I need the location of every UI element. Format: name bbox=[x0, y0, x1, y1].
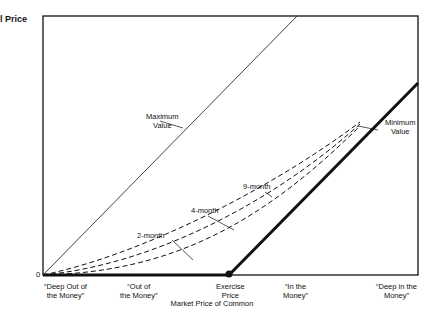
max-value-label: Maximum Value bbox=[146, 113, 179, 130]
min-label-line2: Value bbox=[385, 128, 415, 137]
label-2-month: 2-month bbox=[137, 232, 165, 241]
curve-4-month bbox=[43, 124, 360, 275]
x-label-deep-in: “Deep in the Money” bbox=[376, 283, 417, 300]
maximum-value-line bbox=[43, 16, 297, 275]
min-value-label: Minimum Value bbox=[385, 119, 415, 136]
chart-canvas bbox=[0, 0, 426, 312]
curve-2-month bbox=[43, 126, 360, 275]
y-zero-tick: 0 bbox=[36, 270, 40, 279]
x-label-out: “Out of the Money” bbox=[120, 283, 158, 300]
minimum-value-line bbox=[43, 83, 418, 275]
x-label-in: “In the Money” bbox=[283, 283, 308, 300]
m2-leader bbox=[172, 240, 193, 260]
x-label-exercise: Exercise Price bbox=[216, 283, 245, 300]
max-label-line2: Value bbox=[146, 122, 179, 131]
label-4-month: 4-month bbox=[191, 207, 219, 216]
label-9-month: 9-month bbox=[243, 183, 271, 192]
plot-frame bbox=[43, 16, 418, 275]
x-label-deep-out: “Deep Out of the Money” bbox=[44, 283, 87, 300]
curve-9-month bbox=[43, 122, 360, 275]
x-axis-title: Market Price of Common bbox=[0, 299, 425, 308]
m4-leader bbox=[208, 216, 234, 230]
y-axis-label: l Price bbox=[0, 14, 27, 24]
exercise-price-point bbox=[226, 271, 233, 278]
